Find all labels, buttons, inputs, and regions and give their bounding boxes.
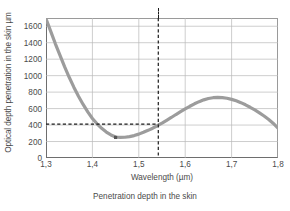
x-axis-tick-label: 1,3 <box>40 160 51 169</box>
x-axis-title: Wavelength (µm) <box>46 173 278 182</box>
annotation-layer <box>46 18 158 158</box>
data-marker-layer <box>114 136 117 139</box>
x-axis-tick-labels: 1,31,41,51,61,71,8 <box>0 160 290 174</box>
x-axis-tick-label: 1,5 <box>133 160 144 169</box>
data-series-layer <box>46 19 278 138</box>
x-axis-tick-label: 1,4 <box>87 160 98 169</box>
y-axis-tick-label: 1000 <box>24 71 42 80</box>
figure-caption: Penetration depth in the skin <box>0 192 290 201</box>
x-axis-tick-label: 1,6 <box>179 160 190 169</box>
y-axis-tick-label: 1600 <box>24 22 42 31</box>
x-axis-tick-label: 1,7 <box>226 160 237 169</box>
y-axis-tick-label: 200 <box>28 137 42 146</box>
y-axis-title-text: Optical depth penetration in the skin µm <box>4 12 13 152</box>
plot-area <box>46 18 278 158</box>
chart-figure: Optical depth penetration in the skin µm… <box>0 0 290 211</box>
x-axis-tick-label: 1,8 <box>272 160 283 169</box>
y-axis-tick-label: 600 <box>28 104 42 113</box>
y-axis-tick-label: 1400 <box>24 38 42 47</box>
y-axis-tick-label: 400 <box>28 121 42 130</box>
y-axis-tick-labels: 02004006008001000120014001600 <box>14 0 44 211</box>
y-axis-tick-label: 800 <box>28 88 42 97</box>
vertical-reference-line-extension <box>158 8 159 18</box>
y-axis-tick-label: 1200 <box>24 55 42 64</box>
gridlines <box>46 18 278 158</box>
plot-canvas <box>46 18 278 158</box>
